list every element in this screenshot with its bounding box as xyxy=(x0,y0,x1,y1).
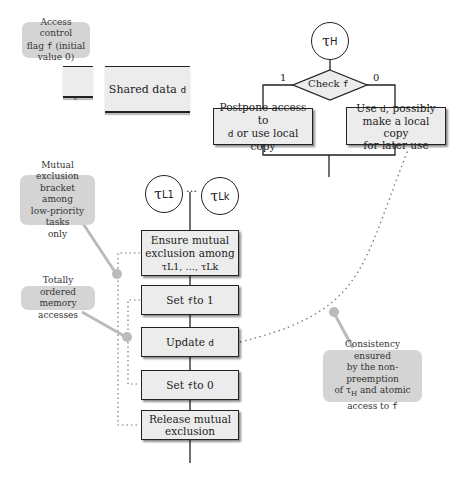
task-name: τ xyxy=(322,33,330,49)
callout-text: Mutual exclusion xyxy=(36,160,79,182)
diagram-canvas: Access control flag f (initial value 0) … xyxy=(0,0,463,478)
postpone-box: Postpone access to d or use local copy xyxy=(213,108,313,145)
consistency-callout: Consistency ensured by the non-preemptio… xyxy=(323,350,422,402)
callout-text: access to xyxy=(347,401,392,411)
use-text: make a local copy xyxy=(363,115,430,139)
callout-text: Totally ordered xyxy=(40,275,76,297)
task-low-k: τLk xyxy=(201,177,239,215)
callout-text: memory accesses xyxy=(38,298,78,320)
step-text: Set xyxy=(166,294,184,307)
step-set0-box: Set f to 0 xyxy=(141,370,239,400)
task-ellipsis: … xyxy=(186,182,197,195)
callout-text: only xyxy=(48,229,67,239)
step-text: exclusion xyxy=(165,425,215,437)
task-sub: L1 xyxy=(162,189,174,200)
ordered-callout: Totally ordered memory accesses xyxy=(21,286,95,310)
decision-label: Check f xyxy=(308,78,349,89)
use-text: Use xyxy=(356,102,380,114)
decision-var: f xyxy=(343,78,349,89)
task-low-1: τL1 xyxy=(145,175,183,213)
postpone-text: Postpone access to xyxy=(220,101,307,126)
branch-1-label: 1 xyxy=(280,72,286,83)
task-sub: Lk xyxy=(218,191,229,202)
step-text: τL1, …, τLk xyxy=(162,261,219,272)
step-text: Set xyxy=(166,379,184,392)
callout-text: low-priority tasks xyxy=(31,206,84,228)
callout-text: of τ xyxy=(334,385,351,395)
callout-text: bracket among xyxy=(40,183,75,205)
step-text: exclusion among xyxy=(145,247,234,259)
flag-box xyxy=(63,66,93,98)
step-update-box: Update d xyxy=(141,327,239,357)
step-text: to 0 xyxy=(193,379,214,392)
mutex-bracket-callout: Mutual exclusion bracket among low-prior… xyxy=(20,175,95,225)
task-high: τH xyxy=(311,22,349,60)
use-text: for later use xyxy=(363,139,428,151)
branch-0-label: 0 xyxy=(373,72,379,83)
step-set1-box: Set f to 1 xyxy=(141,285,239,315)
callout-text: Consistency ensured xyxy=(345,339,400,361)
step-text: Update xyxy=(166,336,205,349)
flag-callout: Access control flag f (initial value 0) xyxy=(22,22,90,58)
flag-callout-text: (initial xyxy=(53,41,86,51)
postpone-text: or use local copy xyxy=(233,127,298,152)
step-var: d xyxy=(208,336,214,349)
use-text: , possibly xyxy=(386,102,436,114)
flag-callout-text: flag xyxy=(27,41,47,51)
step-release-box: Release mutual exclusion xyxy=(141,410,239,440)
task-sub: H xyxy=(330,36,338,47)
callout-text: by the non-preemption xyxy=(346,362,399,384)
shared-data-label: Shared data xyxy=(109,83,177,96)
task-name: τ xyxy=(154,186,162,202)
use-data-box: Use d, possibly make a local copy for la… xyxy=(346,107,446,145)
callout-text: and atomic xyxy=(357,385,411,395)
shared-data-var: d xyxy=(180,84,186,95)
flag-callout-text: Access control xyxy=(40,17,72,39)
step-text: Release mutual xyxy=(149,413,231,425)
step-text: to 1 xyxy=(193,294,214,307)
callout-var: f xyxy=(392,400,398,411)
step-text: Ensure mutual xyxy=(151,234,229,246)
step-ensure-box: Ensure mutual exclusion among τL1, …, τL… xyxy=(141,230,239,276)
shared-data-box: Shared data d xyxy=(105,66,190,113)
flag-callout-text: value 0) xyxy=(38,52,75,62)
task-name: τ xyxy=(210,188,218,204)
decision-text: Check xyxy=(308,78,343,89)
